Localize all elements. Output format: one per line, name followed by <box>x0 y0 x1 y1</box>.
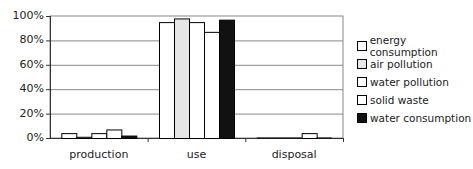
bar <box>175 19 190 139</box>
legend-item: solid waste <box>357 91 473 109</box>
x-tick-label: disposal <box>245 148 343 161</box>
bar <box>77 137 92 138</box>
legend-swatch-icon <box>357 41 367 51</box>
bar <box>92 134 107 139</box>
legend-swatch-icon <box>357 113 367 123</box>
x-tick-label: production <box>50 148 148 161</box>
legend-label: water consumption <box>370 112 471 124</box>
x-tick-label: use <box>148 148 246 161</box>
legend-label: water pollution <box>370 76 449 88</box>
legend-swatch-icon <box>357 59 367 69</box>
bar <box>302 134 317 139</box>
legend-label: energy consumption <box>370 34 473 58</box>
bar-chart: 0%20%40%60%80%100% productionusedisposal… <box>0 0 473 169</box>
legend-item: water pollution <box>357 73 473 91</box>
legend-item: water consumption <box>357 109 473 127</box>
legend-label: air pollution <box>370 58 433 70</box>
legend: energy consumptionair pollutionwater pol… <box>357 37 473 127</box>
bar <box>190 23 205 139</box>
legend-label: solid waste <box>370 94 429 106</box>
legend-item: energy consumption <box>357 37 473 55</box>
legend-swatch-icon <box>357 95 367 105</box>
bar <box>62 134 77 139</box>
bar <box>220 20 235 138</box>
bar <box>122 136 137 138</box>
legend-swatch-icon <box>357 77 367 87</box>
bar <box>160 23 175 139</box>
bar <box>107 130 122 139</box>
bar <box>205 32 220 138</box>
